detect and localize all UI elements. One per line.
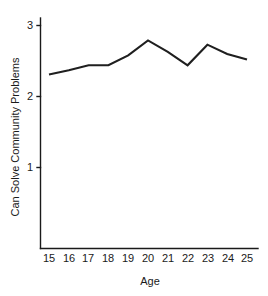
x-tick-label-22: 22	[182, 252, 194, 264]
x-tick-label-16: 16	[63, 252, 75, 264]
y-tick-label-2: 2	[27, 90, 33, 102]
line-chart: 3 2 1 15 16 17 18 19 20 21 22 23 24 25 A…	[0, 0, 268, 296]
y-axis-title: Can Solve Community Problems	[9, 57, 21, 216]
x-tick-label-24: 24	[222, 252, 234, 264]
x-axis-tick-labels: 15 16 17 18 19 20 21 22 23 24 25	[43, 252, 253, 264]
y-tick-label-3: 3	[27, 19, 33, 31]
x-tick-label-15: 15	[43, 252, 55, 264]
y-tick-label-1: 1	[27, 161, 33, 173]
x-tick-label-20: 20	[142, 252, 154, 264]
x-tick-label-23: 23	[202, 252, 214, 264]
x-tick-label-25: 25	[241, 252, 253, 264]
x-tick-label-18: 18	[102, 252, 114, 264]
x-axis-title: Age	[140, 275, 160, 287]
x-tick-label-19: 19	[122, 252, 134, 264]
x-tick-label-21: 21	[162, 252, 174, 264]
chart-canvas: 3 2 1 15 16 17 18 19 20 21 22 23 24 25 A…	[0, 0, 268, 296]
x-tick-label-17: 17	[82, 252, 94, 264]
